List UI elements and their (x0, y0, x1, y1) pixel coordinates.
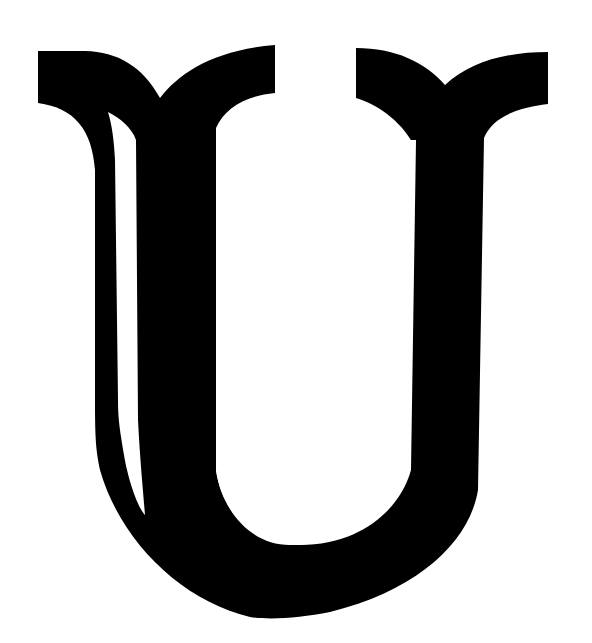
letter-canvas (0, 0, 592, 643)
letter-u-counter (216, 140, 416, 545)
letter-u-glyph (0, 0, 592, 643)
